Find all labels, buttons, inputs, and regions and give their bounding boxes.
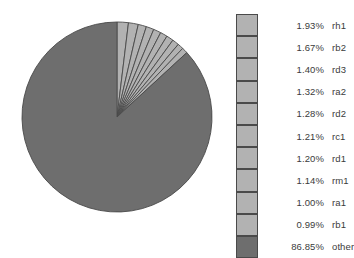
legend-swatch-ra2 xyxy=(236,81,258,103)
legend-label-rd2: rd2 xyxy=(332,108,346,119)
legend-row-rd2[interactable]: 1.28%rd2 xyxy=(236,103,354,125)
chart-legend: 1.93%rh11.67%rb21.40%rd31.32%ra21.28%rd2… xyxy=(236,14,354,242)
legend-percent-rd3: 1.40% xyxy=(262,64,324,75)
legend-percent-other: 86.85% xyxy=(262,241,324,252)
legend-label-rb2: rb2 xyxy=(332,42,346,53)
legend-swatch-rd1 xyxy=(236,147,258,169)
legend-swatch-rc1 xyxy=(236,125,258,147)
legend-label-rd3: rd3 xyxy=(332,64,346,75)
legend-label-rh1: rh1 xyxy=(332,20,346,31)
legend-swatch-rh1 xyxy=(236,14,258,36)
legend-row-ra2[interactable]: 1.32%ra2 xyxy=(236,81,354,103)
legend-row-rb2[interactable]: 1.67%rb2 xyxy=(236,36,354,58)
pie-slices-group xyxy=(22,22,212,212)
legend-label-rb1: rb1 xyxy=(332,219,346,230)
pie-chart-svg xyxy=(0,0,232,252)
legend-percent-ra1: 1.00% xyxy=(262,197,324,208)
legend-row-rc1[interactable]: 1.21%rc1 xyxy=(236,125,354,147)
legend-label-ra1: ra1 xyxy=(332,197,346,208)
legend-percent-rb2: 1.67% xyxy=(262,42,324,53)
legend-swatch-ra1 xyxy=(236,192,258,214)
legend-row-rh1[interactable]: 1.93%rh1 xyxy=(236,14,354,36)
legend-swatch-rd3 xyxy=(236,58,258,80)
legend-label-rc1: rc1 xyxy=(332,131,346,142)
legend-label-ra2: ra2 xyxy=(332,86,346,97)
legend-swatch-rb1 xyxy=(236,214,258,236)
legend-percent-rh1: 1.93% xyxy=(262,20,324,31)
legend-row-ra1[interactable]: 1.00%ra1 xyxy=(236,192,354,214)
legend-swatch-rm1 xyxy=(236,169,258,191)
legend-percent-rd2: 1.28% xyxy=(262,108,324,119)
legend-percent-ra2: 1.32% xyxy=(262,86,324,97)
legend-row-other[interactable]: 86.85%other xyxy=(236,236,354,258)
legend-label-rm1: rm1 xyxy=(332,175,349,186)
legend-percent-rm1: 1.14% xyxy=(262,175,324,186)
legend-row-rb1[interactable]: 0.99%rb1 xyxy=(236,214,354,236)
pie-chart-area xyxy=(0,0,232,252)
legend-percent-rb1: 0.99% xyxy=(262,219,324,230)
legend-swatch-other xyxy=(236,236,258,258)
legend-label-other: other xyxy=(332,241,354,252)
legend-row-rm1[interactable]: 1.14%rm1 xyxy=(236,169,354,191)
legend-swatch-rb2 xyxy=(236,36,258,58)
legend-row-rd3[interactable]: 1.40%rd3 xyxy=(236,58,354,80)
legend-label-rd1: rd1 xyxy=(332,153,346,164)
legend-swatch-rd2 xyxy=(236,103,258,125)
legend-percent-rd1: 1.20% xyxy=(262,153,324,164)
legend-row-rd1[interactable]: 1.20%rd1 xyxy=(236,147,354,169)
legend-percent-rc1: 1.21% xyxy=(262,131,324,142)
